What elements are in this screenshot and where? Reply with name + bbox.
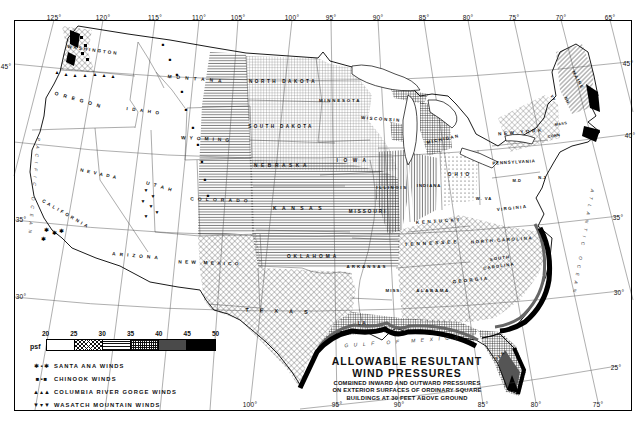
legend-tick-labels: 20253035404550 (46, 330, 216, 339)
meridian-label-top: 125° (47, 14, 62, 21)
chinook-wind-symbol: ■ (207, 194, 210, 199)
meridian-label-top: 90° (373, 14, 384, 21)
parallel-label-right: 45° (623, 60, 634, 67)
wind-legend-label: CHINOOK WINDS (54, 376, 117, 382)
state-label: LA. (358, 321, 370, 326)
state-label: INDIANA (417, 183, 441, 188)
wind-legend-symbol: ■▪■ (30, 376, 54, 382)
legend-tick-label: 50 (212, 330, 219, 337)
wind-legend-symbol: ▼▾▼ (30, 401, 54, 408)
meridian-label-top: 95° (326, 14, 337, 21)
state-label: MINNESOTA (319, 98, 361, 103)
santa-ana-wind-symbol: ✱ (59, 229, 64, 235)
parallel-label-right: 30° (614, 289, 625, 296)
meridian-label-top: 70° (556, 14, 567, 21)
state-label: W. VA (476, 196, 493, 201)
columbia-river-gorge-wind-symbol: ▲ (102, 73, 107, 78)
map-title-line1: ALLOWABLE RESULTANT (328, 356, 486, 368)
state-label: ILLINOIS (376, 185, 407, 190)
map-title-line2: WIND PRESSURES (328, 368, 486, 380)
meridian-label-bottom: 75° (593, 401, 604, 408)
meridian-label-bottom: 100° (243, 401, 258, 408)
chinook-wind-symbol: ■ (201, 160, 204, 165)
pressure-legend: psf 20253035404550 ✱▪✱SANTA ANA WINDS■▪■… (30, 330, 235, 411)
legend-tick-label: 20 (42, 330, 49, 337)
wind-legend-label: COLUMBIA RIVER GORGE WINDS (54, 389, 177, 395)
map-title-block: ALLOWABLE RESULTANT WIND PRESSURES COMBI… (328, 356, 486, 402)
wind-legend-row: ▲▴▲COLUMBIA RIVER GORGE WINDS (30, 385, 235, 398)
legend-swatch-20-25-psf (47, 340, 75, 350)
state-label: KANSAS (273, 205, 327, 211)
chinook-wind-symbol: ■ (169, 58, 172, 63)
parallel-label-right: 25° (611, 364, 622, 371)
wind-legend-row: ■▪■CHINOOK WINDS (30, 372, 235, 385)
state-label: MISS. (386, 288, 403, 293)
legend-tick-label: 40 (155, 330, 162, 337)
state-label: OHIO (448, 172, 473, 177)
columbia-river-gorge-wind-symbol: ▲ (73, 73, 78, 78)
parallel-label-left: 45° (1, 63, 12, 70)
state-label: OKLAHOMA (287, 254, 339, 259)
meridian-label-top: 85° (419, 14, 430, 21)
wasatch-mountain-wind-symbol: ▼ (149, 204, 154, 209)
state-label: NEBRASKA (254, 163, 310, 168)
chinook-wind-symbol: ■ (197, 143, 200, 148)
state-label: ALABAMA (416, 288, 449, 293)
legend-swatch-40-45-psf (159, 340, 187, 350)
santa-ana-wind-symbol: ✱ (44, 228, 49, 234)
map-subtitle-line1: COMBINED INWARD AND OUTWARD PRESSURES (328, 380, 486, 387)
wind-legend-label: WASATCH MOUNTAIN WINDS (54, 402, 160, 408)
santa-ana-wind-symbol: ✱ (52, 231, 57, 237)
legend-tick-label: 45 (184, 330, 191, 337)
legend-tick-label: 35 (127, 330, 134, 337)
wasatch-mountain-wind-symbol: ▼ (141, 199, 146, 204)
state-label: N.J (538, 175, 546, 180)
legend-tick-label: 30 (99, 330, 106, 337)
legend-unit-label: psf (30, 343, 41, 351)
meridian-label-top: 120° (96, 14, 111, 21)
wasatch-mountain-wind-symbol: ▼ (144, 214, 149, 219)
meridian-label-top: 80° (463, 14, 474, 21)
meridian-label-top: 75° (509, 14, 520, 21)
columbia-river-gorge-wind-symbol: ▲ (55, 70, 60, 75)
wind-legend-symbol: ▲▴▲ (30, 388, 54, 395)
columbia-river-gorge-wind-symbol: ▲ (64, 72, 69, 77)
meridian-label-top: 65° (605, 14, 616, 21)
legend-swatch-45-50-psf (187, 340, 214, 350)
meridian-label-top: 110° (192, 14, 206, 21)
legend-bar-wrap: 20253035404550 (46, 330, 216, 351)
map-subtitle-line3: BUILDINGS AT 30 FEET ABOVE GROUND (328, 395, 486, 402)
parallel-label-right: 40° (625, 132, 636, 139)
meridian-label-top: 115° (148, 14, 162, 21)
wind-legend-symbol: ✱▪✱ (30, 362, 54, 369)
wind-legend-row: ✱▪✱SANTA ANA WINDS (30, 359, 235, 372)
chinook-wind-symbol: ■ (192, 126, 195, 131)
state-label: M.D (513, 178, 522, 183)
columbia-river-gorge-wind-symbol: ▲ (93, 72, 98, 77)
legend-pattern-bar (46, 339, 216, 351)
meridian-label-top: 100° (285, 14, 300, 21)
legend-swatch-30-35-psf (103, 340, 131, 350)
columbia-river-gorge-wind-symbol: ▲ (111, 74, 116, 79)
meridian-label-top: 105° (231, 14, 246, 21)
santa-ana-wind-symbol: ✱ (41, 237, 46, 243)
parallel-label-left: 30° (16, 293, 27, 300)
state-label: ARKANSAS (347, 264, 388, 269)
wind-legend-label: SANTA ANA WINDS (54, 363, 125, 369)
columbia-river-gorge-wind-symbol: ▲ (83, 73, 88, 78)
parallel-label-left: 35° (16, 216, 27, 223)
legend-bar-row: psf 20253035404550 (30, 330, 235, 351)
map-subtitle-line2: ON EXTERIOR SURFACES OF ORDINARY SQUARE (328, 387, 486, 394)
chinook-wind-symbol: ■ (181, 90, 184, 95)
state-label: NORTH DAKOTA (249, 79, 317, 84)
state-label: MISSOURI (349, 209, 388, 214)
chinook-wind-symbol: ■ (204, 178, 207, 183)
legend-swatch-25-30-psf (75, 340, 103, 350)
parallel-label-right: 35° (613, 214, 624, 221)
legend-swatch-35-40-psf (131, 340, 159, 350)
chinook-wind-symbol: ■ (162, 43, 165, 48)
legend-tick-label: 25 (70, 330, 77, 337)
map-page: 125°120°115°110°105°100°95°90°85°80°75°7… (0, 0, 642, 426)
wasatch-mountain-wind-symbol: ▼ (151, 194, 156, 199)
wind-legend-row: ▼▾▼WASATCH MOUNTAIN WINDS (30, 398, 235, 411)
